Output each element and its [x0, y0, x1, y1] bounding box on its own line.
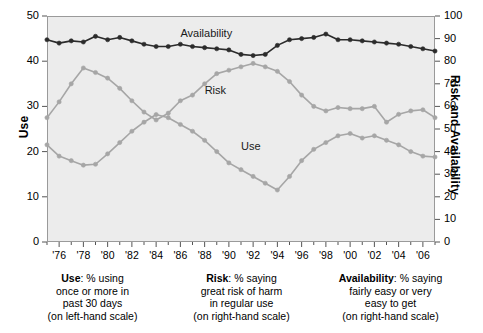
caption-line: (on left-hand scale) — [18, 310, 167, 323]
x-axis-tick: '84 — [143, 249, 169, 261]
caption-line: great risk of harm — [167, 285, 316, 298]
series-availability — [45, 32, 437, 58]
y-axis-right-tick: 90 — [444, 32, 474, 44]
caption-term: Use — [61, 272, 80, 284]
x-axis-tick: '78 — [70, 249, 96, 261]
caption-line: : % using — [81, 272, 124, 284]
caption-line: easy to get — [316, 297, 465, 310]
caption-line: (on right-hand scale) — [167, 310, 316, 323]
series-label-availability: Availability — [180, 27, 232, 39]
y-axis-left-tick: 10 — [13, 190, 39, 202]
chart-canvas — [0, 0, 483, 268]
x-axis-tick: '76 — [46, 249, 72, 261]
x-axis-tick: '88 — [192, 249, 218, 261]
plot-wrapper: 010203040500102030405060708090100'76'78'… — [0, 0, 483, 268]
chart-figure: 010203040500102030405060708090100'76'78'… — [0, 0, 483, 333]
caption-line: once or more in — [18, 285, 167, 298]
y-axis-right-tick: 0 — [444, 235, 474, 247]
caption-availability: Availability: % sayingfairly easy or ver… — [316, 272, 465, 322]
x-axis-tick: '02 — [361, 249, 387, 261]
y-axis-left-tick: 0 — [13, 235, 39, 247]
x-axis-tick: '90 — [216, 249, 242, 261]
x-axis-tick: '92 — [240, 249, 266, 261]
caption-line: (on right-hand scale) — [316, 310, 465, 323]
series-use — [45, 112, 437, 192]
caption-line: past 30 days — [18, 297, 167, 310]
x-axis-tick: '04 — [386, 249, 412, 261]
y-axis-left-title: Use — [17, 97, 31, 157]
x-axis-tick: '94 — [264, 249, 290, 261]
y-axis-right-tick: 100 — [444, 9, 474, 21]
caption-use: Use: % usingonce or more inpast 30 days(… — [18, 272, 167, 322]
x-axis-tick: '06 — [410, 249, 436, 261]
caption-line: : % saying — [394, 272, 442, 284]
x-axis-tick: '96 — [289, 249, 315, 261]
x-axis-tick: '98 — [313, 249, 339, 261]
caption-line: fairly easy or very — [316, 285, 465, 298]
caption-row: Use: % usingonce or more inpast 30 days(… — [0, 272, 483, 333]
x-axis-tick: '00 — [337, 249, 363, 261]
series-label-risk: Risk — [205, 84, 226, 96]
caption-risk: Risk: % sayinggreat risk of harmin regul… — [167, 272, 316, 322]
y-axis-left-tick: 40 — [13, 54, 39, 66]
caption-term: Risk — [206, 272, 228, 284]
caption-line: : % saying — [228, 272, 276, 284]
x-axis-tick: '82 — [119, 249, 145, 261]
caption-term: Availability — [339, 272, 394, 284]
caption-line: in regular use — [167, 297, 316, 310]
x-axis-tick: '80 — [95, 249, 121, 261]
y-axis-right-title: Risk and Availability — [448, 55, 462, 215]
y-axis-left-tick: 50 — [13, 9, 39, 21]
series-risk — [45, 61, 437, 124]
series-label-use: Use — [241, 140, 261, 152]
x-axis-tick: '86 — [167, 249, 193, 261]
